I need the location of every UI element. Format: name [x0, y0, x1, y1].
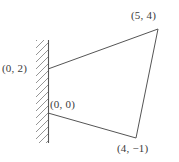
vertex-label-bottom-right: (4, −1): [117, 143, 148, 154]
geometry-diagram: [0, 0, 179, 162]
edge-right: [136, 29, 158, 138]
vertex-label-origin: (0, 0): [50, 99, 75, 110]
edge-top: [48, 29, 158, 69]
vertex-label-top-left: (0, 2): [2, 63, 27, 74]
quadrilateral-plate: [48, 29, 158, 138]
vertex-label-top-right: (5, 4): [131, 10, 156, 21]
figure-container: (0, 2) (0, 0) (5, 4) (4, −1): [0, 0, 179, 162]
edge-bottom: [48, 113, 136, 138]
wall-hatching: [36, 40, 48, 143]
